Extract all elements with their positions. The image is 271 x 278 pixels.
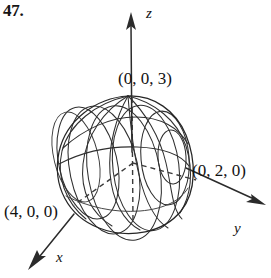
z-axis-line [131, 25, 132, 152]
cross-section-upper [63, 117, 188, 148]
figure-container: 47. [0, 0, 271, 278]
y-intercept-label: (0, 2, 0) [192, 161, 246, 180]
meridian-6 [128, 96, 191, 213]
meridian-2 [83, 96, 128, 226]
cross-section-lower [66, 188, 188, 211]
ellipsoid-figure-svg: z y x (0, 0, 3) (0, 2, 0) (4, 0, 0) [0, 0, 271, 278]
axis-labels: z y x [55, 5, 241, 265]
x-axis [28, 214, 74, 270]
latitude-ring-5 [106, 101, 187, 234]
z-intercept-label: (0, 0, 3) [118, 69, 172, 88]
cross-section-middle [59, 147, 189, 166]
meridian-4 [128, 96, 168, 228]
latitude-ring-1 [44, 107, 109, 207]
z-axis-label: z [145, 5, 152, 21]
intercept-labels: (0, 0, 3) (0, 2, 0) (4, 0, 0) [4, 69, 246, 221]
y-axis-arrowhead [246, 194, 266, 205]
x-intercept-label: (4, 0, 0) [4, 202, 58, 221]
y-axis-label: y [232, 220, 241, 236]
x-axis-label: x [55, 249, 63, 265]
